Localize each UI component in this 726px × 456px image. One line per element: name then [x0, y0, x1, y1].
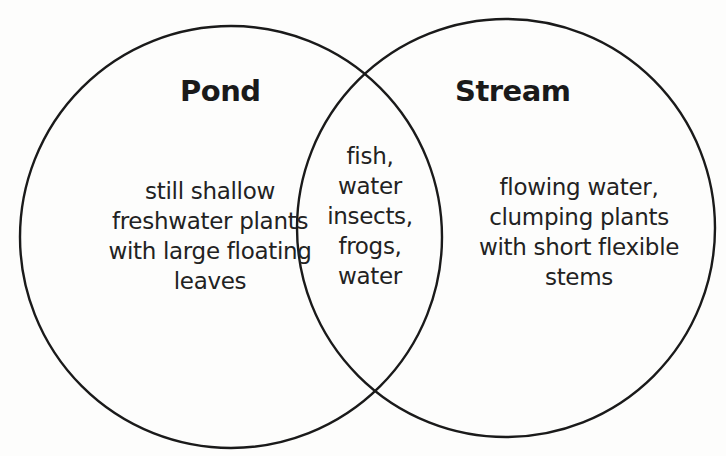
stream-line: flowing water,: [444, 172, 714, 202]
shared-line: frogs,: [310, 231, 430, 261]
shared-line: insects,: [310, 201, 430, 231]
stream-description: flowing water, clumping plants with shor…: [444, 172, 714, 292]
stream-line: clumping plants: [444, 202, 714, 232]
pond-title: Pond: [180, 74, 261, 108]
shared-line: fish,: [310, 141, 430, 171]
venn-diagram: Pond Stream still shallow freshwater pla…: [0, 0, 726, 456]
shared-line: water: [310, 261, 430, 291]
stream-title: Stream: [455, 74, 571, 108]
shared-traits: fish, water insects, frogs, water: [310, 141, 430, 291]
shared-line: water: [310, 171, 430, 201]
stream-line: with short flexible: [444, 232, 714, 262]
stream-line: stems: [444, 262, 714, 292]
